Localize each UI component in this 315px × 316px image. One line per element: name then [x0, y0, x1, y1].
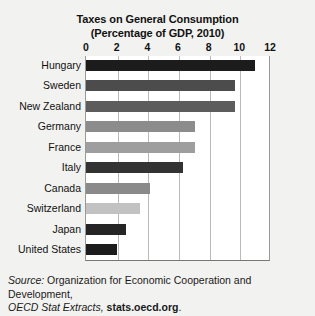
- x-axis-tick-label: 10: [233, 41, 245, 53]
- chart-title-block: Taxes on General Consumption (Percentage…: [0, 13, 315, 40]
- x-axis-tick-label: 0: [83, 41, 89, 53]
- bar: [86, 80, 235, 91]
- chart-row: Germany: [0, 118, 315, 139]
- bar: [86, 121, 195, 132]
- source-text: Organization for Economic Cooperation an…: [8, 274, 251, 300]
- bar: [86, 203, 140, 214]
- source-label: Source:: [8, 274, 44, 286]
- x-axis-tick-label: 6: [175, 41, 181, 53]
- category-label: United States: [18, 243, 81, 255]
- chart-row: Sweden: [0, 77, 315, 98]
- category-label: Japan: [52, 223, 81, 235]
- category-label: Switzerland: [27, 202, 81, 214]
- bar: [86, 183, 150, 194]
- category-label: Hungary: [41, 59, 81, 71]
- chart-row: Canada: [0, 179, 315, 200]
- bar: [86, 244, 117, 255]
- chart-row: Japan: [0, 220, 315, 241]
- category-label: New Zealand: [19, 100, 81, 112]
- source-note: Source: Organization for Economic Cooper…: [8, 274, 308, 315]
- x-axis-tick-label: 12: [264, 41, 276, 53]
- bar: [86, 224, 126, 235]
- x-axis-tick-label: 2: [114, 41, 120, 53]
- x-axis-tick-labels: 024681012: [0, 41, 315, 54]
- chart-subtitle: (Percentage of GDP, 2010): [0, 27, 315, 41]
- chart-row: Italy: [0, 159, 315, 180]
- source-url: stats.oecd.org: [104, 301, 179, 313]
- chart-row: France: [0, 138, 315, 159]
- chart-rows: HungarySwedenNew ZealandGermanyFranceIta…: [0, 56, 315, 261]
- chart-row: United States: [0, 241, 315, 262]
- chart-row: New Zealand: [0, 97, 315, 118]
- category-label: France: [48, 141, 81, 153]
- bar: [86, 60, 255, 71]
- category-label: Canada: [44, 182, 81, 194]
- bar: [86, 142, 195, 153]
- source-period: .: [178, 301, 181, 313]
- chart-title: Taxes on General Consumption: [0, 13, 315, 27]
- source-publication: OECD Stat Extracts,: [8, 301, 104, 313]
- category-label: Sweden: [43, 79, 81, 91]
- bar: [86, 162, 183, 173]
- chart-row: Hungary: [0, 56, 315, 77]
- bar: [86, 101, 235, 112]
- chart-figure: Taxes on General Consumption (Percentage…: [0, 0, 315, 316]
- category-label: Italy: [62, 161, 81, 173]
- chart-row: Switzerland: [0, 200, 315, 221]
- x-axis-tick-label: 4: [144, 41, 150, 53]
- category-label: Germany: [38, 120, 81, 132]
- x-axis-tick-label: 8: [206, 41, 212, 53]
